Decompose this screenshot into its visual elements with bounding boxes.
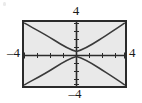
- x-max-tick-label: 4: [129, 46, 141, 59]
- calculator-screen[interactable]: [22, 20, 127, 88]
- y-min-tick-label: –4: [64, 87, 86, 100]
- x-min-tick-label: –4: [2, 46, 20, 59]
- graph-figure: 4 –4 –4 4: [0, 0, 142, 103]
- scan-artifact-speck: [3, 2, 6, 6]
- plot-svg: [24, 22, 125, 86]
- y-max-tick-label: 4: [68, 4, 84, 17]
